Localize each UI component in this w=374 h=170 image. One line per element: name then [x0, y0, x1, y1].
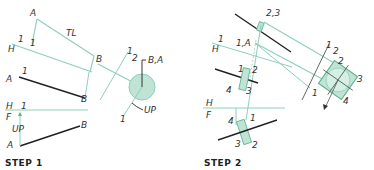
label-1a: 1,A	[236, 38, 251, 48]
label-1-fold: 1	[326, 40, 332, 50]
label-sq-2: 2	[338, 56, 344, 66]
label-h-top: H	[212, 44, 219, 54]
step2-title: STEP 2	[204, 158, 242, 168]
label-tl: TL	[66, 28, 77, 38]
label-b-mid: B	[81, 94, 87, 104]
label-sq-1: 1	[312, 88, 318, 98]
label-h-top: H	[8, 44, 15, 54]
label-up-right: UP	[144, 105, 157, 115]
label-f-low: F	[206, 110, 212, 120]
label-1-mid: 1	[238, 64, 244, 74]
label-h-low: H	[6, 101, 13, 111]
label-4-mid: 4	[226, 85, 232, 95]
label-3-mid: 3	[246, 86, 252, 96]
label-up-left: UP	[12, 124, 25, 134]
label-2-fold: 2	[132, 53, 138, 63]
label-a-top: A	[29, 8, 36, 18]
label-3-low: 3	[235, 139, 241, 149]
descriptive-geometry-diagram: A TL 1 1 H B A 1 B 1 2 B,A H 1 F UP A B …	[0, 0, 374, 170]
label-ba: B,A	[148, 55, 163, 65]
label-1-low: 1	[250, 113, 256, 123]
step1-title: STEP 1	[5, 158, 43, 168]
line-ab-front	[20, 126, 80, 146]
label-2-low: 2	[252, 140, 258, 150]
label-1-right: 1	[120, 114, 126, 124]
leader-up	[132, 103, 143, 110]
label-1-small: 1	[30, 38, 36, 48]
label-23: 2,3	[266, 8, 281, 18]
label-1-top: 1	[18, 34, 24, 44]
fold-line-12	[100, 52, 128, 100]
label-4-low: 4	[228, 116, 234, 126]
label-1-mid: 1	[22, 66, 28, 76]
label-2-fold: 2	[333, 46, 339, 56]
projector-b	[90, 56, 94, 72]
label-a-mid: A	[5, 74, 12, 84]
label-sq-4: 4	[343, 96, 349, 106]
label-1-low: 1	[21, 101, 27, 111]
line-ab-top	[19, 77, 85, 98]
label-h-low: H	[206, 98, 213, 108]
projector-1a	[255, 43, 326, 81]
label-2-mid: 2	[252, 65, 258, 75]
label-b-top: B	[96, 54, 102, 64]
step1-drawing	[5, 19, 155, 146]
label-b-low: B	[81, 120, 87, 130]
label-a-low: A	[6, 140, 13, 150]
step2-drawing	[203, 14, 363, 145]
label-1-top: 1	[218, 34, 224, 44]
label-sq-3: 3	[357, 74, 363, 84]
label-f-low: F	[6, 112, 12, 122]
